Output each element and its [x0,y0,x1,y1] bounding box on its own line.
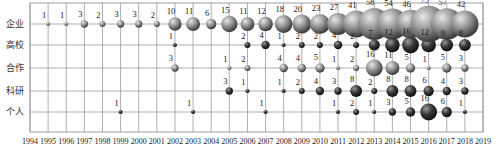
bubble [245,89,249,93]
bubble-value-label: 6 [423,75,427,85]
bubble-value-label: 42 [457,0,466,9]
bubble-value-label: 11 [239,6,247,16]
bubble-value-label: 8 [386,74,390,84]
bubble [336,66,340,70]
bubble [119,110,123,114]
x-tick-label: 2015 [403,137,419,146]
bubble-value-label: 4 [259,30,264,40]
bubble [389,108,396,115]
x-tick-label: 2012 [348,137,364,146]
bubble-value-label: 41 [348,0,357,10]
x-tick-label: 2001 [149,137,165,146]
bubble [334,41,342,49]
bubble-value-label: 75 [420,0,429,5]
bubble [81,20,88,27]
bubble [227,66,231,70]
bubble-value-label: 3 [133,9,137,19]
x-tick-label: 2004 [203,137,219,146]
bubble [173,43,177,47]
bubble [117,20,124,27]
bubble [463,110,467,114]
x-tick-label: 1997 [76,137,92,146]
bubble [316,87,324,95]
x-tick-label: 2017 [439,137,455,146]
x-tick-label: 1999 [113,137,129,146]
y-category-label: 企业 [6,18,24,29]
x-tick-label: 2010 [312,137,328,146]
bubble-value-label: 1 [278,77,282,87]
x-tick-label: 1998 [94,137,110,146]
x-tick-label: 2013 [366,137,382,146]
bubble [461,64,468,71]
bubble-value-label: 23 [312,3,321,13]
bubble-value-label: 3 [114,9,118,19]
bubble [420,104,437,121]
bubble-value-label: 1 [368,98,372,108]
x-tick-label: 2000 [131,137,147,146]
bubble-value-label: 2 [151,10,155,20]
bubble [263,110,267,114]
bubble-value-label: 1 [332,98,336,108]
bubble [261,41,269,49]
x-tick-label: 1996 [58,137,74,146]
bubble-value-label: 2 [350,98,354,108]
bubble-value-label: 54 [384,0,393,8]
bubble-value-label: 15 [221,5,230,15]
x-tick-label: 2005 [221,137,237,146]
bubble-value-label: 10 [167,6,176,16]
bubble-value-label: 11 [384,50,392,60]
bubble [406,107,415,116]
bubble [442,63,451,72]
bubble-value-label: 5 [404,52,408,62]
bubble-value-label: 58 [366,0,375,7]
bubble [371,88,377,94]
bubble [221,16,237,32]
bubble-value-label: 1 [187,98,191,108]
bubble-value-label: 20 [294,4,303,14]
y-category-label: 合作 [6,62,24,73]
bubble-value-label: 3 [223,76,227,86]
bubble-value-label: 4 [332,30,337,40]
bubble [299,42,305,48]
bubble [46,22,50,26]
bubble [186,17,200,31]
bubble [317,42,323,48]
bubble-value-label: 5 [441,52,445,62]
x-tick-label: 1994 [22,137,38,146]
bubble-value-label: 2 [296,31,300,41]
bubble-value-label: 1 [42,10,46,20]
bubble-value-label: 1 [114,98,118,108]
x-tick-label: 2018 [457,137,473,146]
bubble-value-label: 16 [366,49,375,59]
bubble-value-label: 46 [402,0,411,9]
bubble-value-label: 6 [205,8,209,18]
x-tick-label: 2008 [276,137,292,146]
bubble-value-label: 2 [368,77,372,87]
bubble-value-label: 9 [441,28,445,38]
x-tick-label: 2009 [294,137,310,146]
bubble [386,85,398,97]
bubble-value-label: 1 [60,10,64,20]
bubble [244,65,250,71]
y-category-label: 个人 [6,107,24,117]
bubble [226,87,233,94]
bubble-value-label: 5 [314,52,318,62]
bubble-value-label: 1 [423,54,427,64]
bubble [350,85,362,97]
bubble-value-label: 3 [169,53,173,63]
y-category-label: 高校 [6,39,24,50]
bubble [385,61,399,75]
bubble [135,20,142,27]
x-tick-label: 1995 [40,137,56,146]
bubble-value-label: 1 [278,31,282,41]
bubble-value-label: 12 [384,27,393,37]
bubble [299,88,305,94]
bubble-value-label: 4 [314,76,319,86]
y-category-label: 科研 [6,85,24,96]
x-tick-label: 2002 [167,137,183,146]
bubble-value-label: 2 [96,10,100,20]
bubble [366,60,383,77]
bubble [100,21,106,27]
bubble [240,17,254,31]
bubble-value-label: 2 [350,31,354,41]
